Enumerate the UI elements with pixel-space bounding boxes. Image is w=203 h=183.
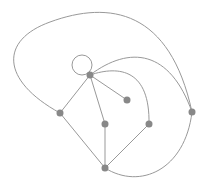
- node-n1: [124, 97, 131, 104]
- edge-left-bottom: [60, 113, 105, 168]
- node-bottom: [102, 165, 109, 172]
- edge-rightmid-bottom: [105, 124, 149, 168]
- node-far: [189, 109, 196, 116]
- node-rightmid: [146, 121, 153, 128]
- edges: [14, 12, 192, 176]
- node-hub: [87, 72, 94, 79]
- edge-hub-n1: [90, 75, 127, 100]
- edge-left-far: [14, 12, 192, 113]
- edge-hub-mid: [90, 75, 105, 124]
- graph-diagram: [0, 0, 203, 183]
- edge-hub-left: [60, 75, 90, 113]
- edge-hub-rightmid: [90, 71, 149, 124]
- node-left: [57, 110, 64, 117]
- node-mid: [102, 121, 109, 128]
